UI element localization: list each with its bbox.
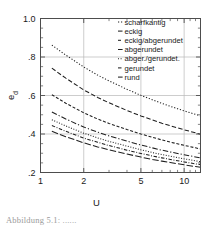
legend-label-5: gerundet — [125, 64, 156, 73]
x-tick-label: 1 — [38, 176, 43, 186]
y-tick-label: .6 — [28, 91, 36, 101]
figure-caption: Abbildung 5.1: ...... — [6, 216, 77, 225]
x-tick-label: 2 — [81, 176, 86, 186]
y-tick-label: .2 — [28, 168, 36, 178]
legend-label-4: abger./gerundet. — [125, 54, 180, 63]
series-curve-5 — [52, 126, 201, 165]
figure-chart-ed-vs-u: .2.4.6.81.012510Uedscharfkantigeckigecki… — [0, 0, 207, 226]
y-axis-title-subscript: d — [12, 91, 19, 95]
figure-caption-strip: Abbildung 5.1: ...... — [0, 216, 207, 226]
legend-label-1: eckig — [125, 27, 143, 36]
y-axis-title: ed — [5, 91, 19, 100]
legend-label-0: scharfkantig — [125, 18, 166, 27]
series-curve-6 — [52, 131, 201, 167]
y-tick-label: .8 — [28, 52, 36, 62]
x-tick-label: 10 — [179, 176, 189, 186]
legend-label-2: eckig/abgerundet — [125, 36, 184, 45]
legend-label-6: rund — [125, 73, 140, 82]
legend-label-3: abgerundet — [125, 45, 164, 54]
x-axis-title: U — [93, 197, 100, 208]
y-tick-label: 1.0 — [23, 14, 36, 24]
chart-canvas: .2.4.6.81.012510Uedscharfkantigeckigecki… — [0, 0, 207, 226]
y-tick-label: .4 — [28, 129, 36, 139]
y-axis-title-text: ed — [5, 91, 19, 100]
x-tick-label: 5 — [138, 176, 143, 186]
